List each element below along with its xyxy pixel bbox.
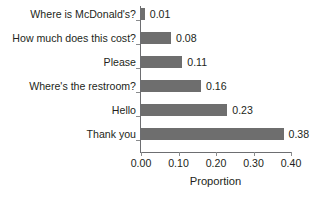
bar — [141, 32, 171, 44]
x-axis-tick-label: 0.30 — [243, 157, 264, 169]
x-axis-tick-label: 0.20 — [206, 157, 227, 169]
y-axis-tick — [136, 92, 140, 93]
plot-area: Where is McDonald's?0.01How much does th… — [0, 0, 321, 198]
x-axis-tick — [254, 152, 255, 156]
y-axis-tick — [136, 68, 140, 69]
bar-value-label: 0.23 — [232, 104, 253, 116]
x-axis-tick — [179, 152, 180, 156]
x-axis-title: Proportion — [140, 175, 291, 187]
category-label: Thank you — [87, 122, 136, 146]
bar-value-label: 0.08 — [176, 32, 197, 44]
x-axis-tick — [291, 152, 292, 156]
x-axis-tick-label: 0.00 — [131, 157, 152, 169]
x-axis-tick — [141, 152, 142, 156]
bar — [141, 8, 145, 20]
category-label: How much does this cost? — [12, 26, 136, 50]
bar-value-label: 0.11 — [187, 56, 207, 68]
bar-value-label: 0.01 — [150, 8, 171, 20]
bar-row: Thank you0.38 — [0, 122, 321, 146]
bar — [141, 56, 182, 68]
proportion-bar-chart: Where is McDonald's?0.01How much does th… — [0, 0, 321, 198]
y-axis-tick — [136, 20, 140, 21]
bar — [141, 80, 201, 92]
y-axis-tick — [136, 116, 140, 117]
bar — [141, 128, 284, 140]
category-label: Where is McDonald's? — [30, 2, 136, 26]
category-label: Where's the restroom? — [29, 74, 136, 98]
bar-value-label: 0.38 — [289, 128, 310, 140]
x-axis-tick-label: 0.10 — [168, 157, 189, 169]
bar-value-label: 0.16 — [206, 80, 227, 92]
bar-row: Please0.11 — [0, 50, 321, 74]
x-axis-tick — [216, 152, 217, 156]
category-label: Hello — [112, 98, 136, 122]
x-axis-tick-label: 0.40 — [281, 157, 302, 169]
y-axis-tick — [136, 44, 140, 45]
category-label: Please — [104, 50, 136, 74]
bar-row: Where's the restroom?0.16 — [0, 74, 321, 98]
y-axis-tick — [136, 140, 140, 141]
bar-row: How much does this cost?0.08 — [0, 26, 321, 50]
bar-row: Hello0.23 — [0, 98, 321, 122]
bar-row: Where is McDonald's?0.01 — [0, 2, 321, 26]
bar — [141, 104, 227, 116]
